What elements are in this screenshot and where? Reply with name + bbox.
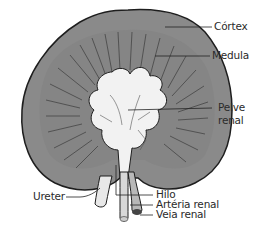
label-ureter: Ureter — [33, 191, 65, 202]
renal-artery — [120, 172, 128, 221]
label-veia-renal: Veia renal — [156, 209, 206, 220]
label-medula: Medula — [212, 50, 249, 61]
label-cortex: Córtex — [214, 21, 247, 32]
label-pelve-line2: renal — [218, 115, 244, 126]
vein-opening — [132, 209, 142, 215]
kidney-diagram: Córtex Medula Pelve renal Ureter Hilo Ar… — [0, 0, 257, 230]
label-pelve-line1: Pelve — [218, 102, 245, 113]
artery-opening — [120, 217, 128, 222]
